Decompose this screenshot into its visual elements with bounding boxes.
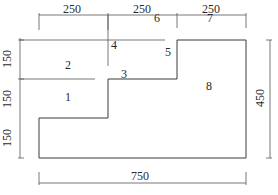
- region-label-5: 5: [165, 46, 171, 58]
- region-label-2: 2: [65, 59, 71, 71]
- region-label-7: 7: [207, 12, 213, 24]
- right-dim-label: 450: [254, 89, 266, 107]
- region-label-8: 8: [206, 80, 212, 92]
- top-dim-label-2: 250: [133, 3, 151, 15]
- left-dim-label-1: 150: [1, 50, 13, 68]
- bottom-dim-label: 750: [131, 170, 149, 182]
- region-label-3: 3: [121, 68, 127, 80]
- auxiliary-lines: [20, 15, 165, 79]
- region-label-6: 6: [154, 12, 160, 24]
- left-dimension-line: [18, 38, 24, 158]
- top-dim-label-1: 250: [63, 3, 81, 15]
- region-label-4: 4: [111, 39, 117, 51]
- drawing-lines: [0, 0, 278, 195]
- region-label-1: 1: [65, 91, 71, 103]
- left-dim-label-3: 150: [1, 129, 13, 147]
- left-dim-label-2: 150: [1, 90, 13, 108]
- stepped-shape-drawing: 250 250 250 150 150 150 450 750 1 2 3 4 …: [0, 0, 278, 195]
